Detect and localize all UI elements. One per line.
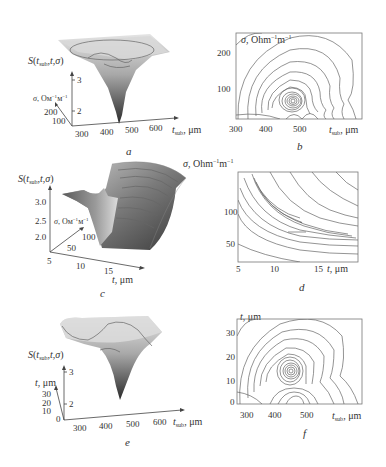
surface-e [60,316,162,400]
panel-e: S(tsub,t,σ) 3 2 t, μm 30 20 10 0 300 400… [28,316,202,448]
z-tick-a: 3 [77,75,82,85]
x-tick-d: 15 [314,264,324,274]
x-tick-f: 500 [300,410,314,420]
z-label-a: S(tsub,t,σ) [28,55,64,67]
z-tick-c: 2.5 [35,216,47,226]
caption-d: d [299,281,305,293]
z-tick-a: 2 [77,106,82,116]
panel-b: σ, Ohm−1m−1 200 100 300 400 500 tsub, μm [217,33,362,152]
z-tick-c: 3.0 [35,197,47,207]
caption-f: f [303,427,308,439]
y-tick-e: 10 [42,406,52,416]
x-label-d: t, μm [327,263,348,274]
z-label-e: S(tsub,t,σ) [28,349,64,361]
y-axis-c [50,228,82,252]
x-tick-d: 10 [270,264,280,274]
y-tick-d: 50 [226,239,236,249]
x-tick-f: 400 [268,410,282,420]
x-tick-b: 400 [259,124,273,134]
z-label-c: S(tsub,t,σ) [18,173,54,185]
contours-d [238,172,358,262]
contours-f [237,319,358,404]
figure: 3 2 S(tsub,t,σ) σ, Ом−1м−1 200 100 300 4… [0,0,386,467]
x-label-e: tsub, μm [173,416,202,428]
x-label-b: tsub, μm [329,124,358,136]
caption-b: b [297,140,303,152]
x-tick-c: 10 [76,261,86,271]
x-tick-d: 5 [236,264,241,274]
x-tick-a: 600 [149,123,163,133]
x-label-f: tsub, μm [332,410,361,422]
y-tick-f: 30 [226,328,236,338]
y-tick-b: 200 [217,48,231,58]
y-label-d: σ, Ohm−1m−1 [183,158,234,169]
plot-frame-d [238,172,358,262]
surface-c [62,162,186,250]
surface-a [58,34,170,124]
x-tick-f: 300 [240,410,254,420]
x-tick-e: 400 [99,421,113,431]
y-label-e: t, μm [35,377,56,388]
x-tick-b: 500 [293,124,307,134]
panel-d: σ, Ohm−1m−1 100 50 5 10 15 t, μm d [183,158,358,293]
x-tick-a: 400 [100,127,114,137]
x-tick-a: 300 [75,129,89,139]
x-tick-a: 500 [125,125,139,135]
x-tick-e: 600 [153,417,167,427]
panel-f: t, μm 30 20 10 0 300 400 500 tsub, [226,311,362,439]
y-tick-e: 0 [56,414,61,424]
y-tick-f: 20 [226,352,236,362]
y-label-a: σ, Ом−1м−1 [33,94,68,103]
z-tick-c: 2.0 [35,232,47,242]
x-label-a: tsub, μm [172,124,201,136]
y-tick-c: 100 [82,232,96,242]
x-tick-c: 5 [47,256,52,266]
x-tick-e: 300 [73,423,87,433]
z-tick-e: 2 [69,399,74,409]
caption-a: a [126,145,132,157]
x-tick-b: 300 [229,124,243,134]
x-axis-c [50,252,142,268]
caption-e: e [125,436,130,448]
panel-c: S(tsub,t,σ) 3.0 2.5 2.0 σ, Ом−1м−1 100 5… [18,162,186,299]
y-tick-f: 0 [230,397,235,407]
y-label-c: σ, Ом−1м−1 [54,217,89,226]
z-tick-e: 3 [69,367,74,377]
y-tick-f: 10 [226,376,236,386]
y-tick-c: 50 [67,243,77,253]
x-tick-e: 500 [126,419,140,429]
x-label-c: t, μm [112,274,133,285]
y-tick-a: 100 [52,116,66,126]
caption-c: c [100,287,105,299]
y-tick-b: 100 [217,84,231,94]
contours-b [236,33,356,119]
y-tick-d: 100 [224,207,238,217]
panel-a: 3 2 S(tsub,t,σ) σ, Ом−1м−1 200 100 300 4… [28,34,201,157]
